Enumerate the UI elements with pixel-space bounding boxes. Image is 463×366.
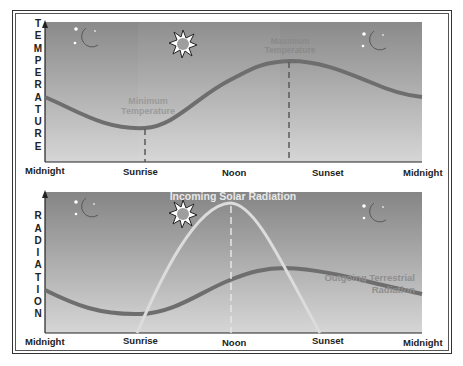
y-label-letter: O xyxy=(32,296,44,308)
radiation-panel: Incoming Solar Radiation Outgoing Terres… xyxy=(0,180,463,366)
y-label-letter: T xyxy=(32,18,44,30)
x-label-sunset: Sunset xyxy=(312,167,344,178)
y-label-letter: M xyxy=(32,43,44,55)
y-label-letter: E xyxy=(32,30,44,42)
y-label-letter: T xyxy=(32,272,44,284)
y-label-letter: A xyxy=(32,259,44,271)
y-label-letter: R xyxy=(32,79,44,91)
temperature-chart: Minimum Temperature Maximum Temperature xyxy=(0,0,463,180)
y-label-letter: N xyxy=(32,308,44,320)
y-label-letter: T xyxy=(32,104,44,116)
x-label-sunset: Sunset xyxy=(312,335,344,346)
y-label-letter: E xyxy=(32,141,44,153)
incoming-solar-radiation-label: Incoming Solar Radiation xyxy=(170,190,297,202)
x-label-sunrise: Sunrise xyxy=(123,335,158,346)
x-label-sunrise: Sunrise xyxy=(123,166,158,177)
outgoing-radiation-label-line1: Outgoing Terrestrial xyxy=(324,272,415,283)
min-temp-label-line2: Temperature xyxy=(121,106,175,116)
y-label-letter: P xyxy=(32,55,44,67)
x-label-noon: Noon xyxy=(222,167,246,178)
x-label-midnight-start: Midnight xyxy=(25,165,65,176)
y-label-letter: I xyxy=(32,247,44,259)
x-label-midnight-end: Midnight xyxy=(403,337,443,348)
y-label-letter: E xyxy=(32,67,44,79)
x-label-midnight-start: Midnight xyxy=(25,336,65,347)
min-temp-label-line1: Minimum xyxy=(128,96,168,106)
y-label-letter: U xyxy=(32,116,44,128)
y-label-letter: R xyxy=(32,128,44,140)
outgoing-radiation-label-line2: Radiation xyxy=(372,284,415,295)
x-label-midnight-end: Midnight xyxy=(403,167,443,178)
temperature-panel: Minimum Temperature Maximum Temperature … xyxy=(0,0,463,180)
y-label-letter: A xyxy=(32,92,44,104)
y-label-letter: I xyxy=(32,284,44,296)
y-label-letter: A xyxy=(32,223,44,235)
x-label-noon: Noon xyxy=(222,337,246,348)
y-label-letter: R xyxy=(32,210,44,222)
max-temp-label-line2: Temperature xyxy=(265,45,316,55)
y-label-letter: D xyxy=(32,235,44,247)
